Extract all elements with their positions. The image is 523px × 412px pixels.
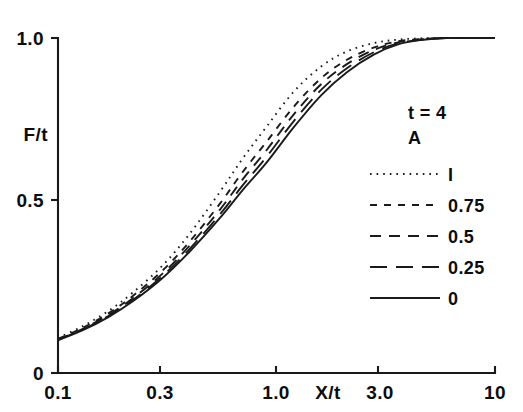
- chart-canvas: 1.0 0.5 0 F/t 0.1 0.3 1.0 3.0 10 X/t t =…: [0, 0, 523, 412]
- legend-label-0.75: 0.75: [448, 196, 485, 216]
- legend-label-0.5: 0.5: [448, 227, 474, 247]
- curve-series-0.25: [58, 38, 495, 340]
- y-axis-tick-labels: 1.0 0.5 0: [16, 28, 44, 384]
- curve-series-0.75: [58, 38, 495, 339]
- y-tick-label-1.0: 1.0: [16, 28, 44, 49]
- legend-label-1: I: [448, 165, 453, 185]
- x-tick-label-1.0: 1.0: [262, 382, 290, 403]
- curve-series-0: [58, 38, 495, 340]
- figure-container: 1.0 0.5 0 F/t 0.1 0.3 1.0 3.0 10 X/t t =…: [0, 0, 523, 412]
- x-tick-label-10: 10: [484, 382, 506, 403]
- x-tick-label-3.0: 3.0: [366, 382, 394, 403]
- legend-header-a: A: [408, 128, 421, 148]
- x-axis-tick-labels: 0.1 0.3 1.0 3.0 10: [44, 382, 506, 403]
- y-tick-label-0: 0: [33, 363, 44, 384]
- legend-entries: I0.750.50.250: [370, 165, 485, 309]
- x-axis-title: X/t: [315, 382, 341, 403]
- x-tick-label-0.1: 0.1: [44, 382, 72, 403]
- legend: t = 4 A I0.750.50.250: [370, 103, 485, 309]
- curve-series-0.5: [58, 38, 495, 340]
- data-curves: [58, 38, 495, 340]
- x-tick-label-0.3: 0.3: [146, 382, 174, 403]
- legend-label-0.25: 0.25: [448, 258, 485, 278]
- legend-label-0: 0: [448, 289, 458, 309]
- curve-series-1: [58, 38, 495, 338]
- y-axis-title: F/t: [24, 124, 49, 145]
- y-tick-label-0.5: 0.5: [16, 190, 44, 211]
- legend-header-t: t = 4: [408, 103, 447, 123]
